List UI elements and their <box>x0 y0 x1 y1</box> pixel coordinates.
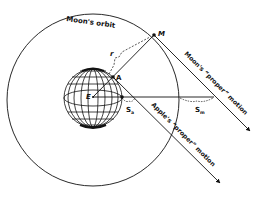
radius-brace <box>109 37 150 74</box>
label-r: r <box>110 50 114 58</box>
apple-fall-brace <box>122 98 135 102</box>
label-m: M <box>158 30 165 38</box>
point-e <box>92 96 94 98</box>
diagram-svg: Moon's orbit M A E r Sa Sm Moon's “prope… <box>0 0 255 198</box>
label-moon-orbit: Moon's orbit <box>66 15 117 30</box>
label-s-m: Sm <box>195 106 205 115</box>
label-moon-proper-motion: Moon's “proper” motion <box>183 50 250 117</box>
moon-fall-brace <box>180 98 213 102</box>
apple-proper-motion-arrow <box>113 77 220 183</box>
label-e: E <box>86 93 91 101</box>
moon-apple-diagram: Moon's orbit M A E r Sa Sm Moon's “prope… <box>0 0 255 198</box>
moon-orbit-circle <box>7 14 179 186</box>
point-apple-fallen <box>120 95 124 99</box>
label-a: A <box>116 74 122 82</box>
label-apple-proper-motion: Apple's “proper” motion <box>150 101 218 169</box>
label-s-a: Sa <box>126 106 134 115</box>
point-a <box>111 75 115 79</box>
point-m <box>152 33 156 37</box>
